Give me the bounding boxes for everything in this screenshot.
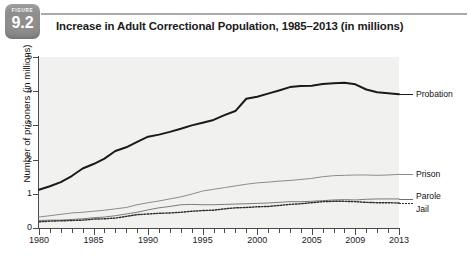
series-label-jail: Jail	[416, 205, 429, 214]
y-tick-0	[33, 228, 38, 229]
y-tick-4	[33, 91, 38, 92]
leader-line-parole	[399, 199, 413, 200]
chart-lines	[0, 0, 468, 268]
series-label-prison: Prison	[416, 170, 440, 179]
y-tick-5	[33, 57, 38, 58]
figure-container: FIGURE 9.2 Increase in Adult Correctiona…	[0, 0, 468, 268]
y-tick-1	[33, 194, 38, 195]
leader-line-jail	[399, 203, 413, 204]
leader-line-prison	[399, 174, 413, 175]
series-line-prison	[39, 174, 399, 217]
leader-line-probation	[399, 94, 413, 95]
y-tick-3	[33, 125, 38, 126]
y-tick-2	[33, 160, 38, 161]
series-label-probation: Probation	[416, 90, 453, 99]
series-label-parole: Parole	[416, 192, 441, 201]
series-line-probation	[39, 83, 399, 190]
